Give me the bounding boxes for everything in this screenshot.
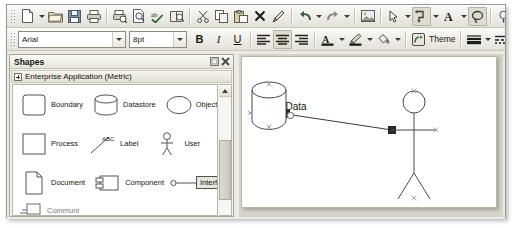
font-size-combo[interactable]: 8pt (129, 31, 187, 48)
separator (106, 8, 107, 24)
shape-item-communication[interactable]: Communi (19, 202, 79, 216)
shape-row-clipped: Communi (13, 202, 217, 216)
scrollbar-thumb[interactable] (219, 140, 231, 200)
restore-icon[interactable] (209, 56, 220, 67)
shape-item-process[interactable]: Process (19, 129, 78, 159)
connector-tool-dropdown[interactable] (431, 7, 440, 26)
line-weight-button[interactable] (464, 30, 483, 49)
font-size-value: 8pt (130, 35, 173, 44)
separator (405, 31, 406, 47)
svg-text:A: A (322, 33, 330, 44)
stencil-header-enterprise-application[interactable]: Enterprise Application (Metric) (11, 70, 232, 83)
shape-label: Communi (45, 206, 79, 215)
line-weight-dropdown[interactable] (483, 30, 492, 49)
research-button[interactable] (167, 7, 186, 26)
cut-button[interactable] (193, 7, 212, 26)
shape-item-label[interactable]: ABC Label (88, 129, 138, 159)
svg-text:ABC: ABC (102, 136, 115, 142)
theme-button[interactable] (409, 30, 428, 49)
rounded-rect-icon (19, 90, 49, 120)
pointer-tool-icon (388, 10, 400, 23)
freeform-tool-button[interactable] (468, 7, 487, 26)
line-color-pencil-icon (349, 33, 362, 46)
line-pattern-button[interactable] (492, 30, 505, 49)
align-right-button[interactable] (292, 30, 311, 49)
scroll-up-icon[interactable] (219, 85, 231, 97)
shape-item-boundary[interactable]: Boundary (19, 90, 83, 120)
lollipop-icon (170, 168, 196, 198)
align-left-button[interactable] (254, 30, 273, 49)
connector-tool-button[interactable] (412, 7, 431, 26)
line-color-button[interactable] (346, 30, 365, 49)
pointer-tool-dropdown[interactable] (403, 7, 412, 26)
formatting-toolbar: Arial 8pt B I U A (7, 28, 505, 51)
format-painter-button[interactable] (269, 7, 288, 26)
drawing-canvas-area[interactable]: Data (239, 54, 503, 217)
text-tool-button[interactable]: A (440, 7, 459, 26)
insert-picture-button[interactable] (358, 7, 377, 26)
undo-button[interactable] (295, 7, 314, 26)
redo-button[interactable] (323, 7, 342, 26)
shape-row: Document Component Interface (13, 163, 217, 202)
save-disk-icon (68, 10, 81, 23)
user-shape[interactable] (392, 89, 438, 201)
shape-item-interface[interactable]: Interface (170, 168, 218, 198)
new-dropdown[interactable] (37, 7, 46, 26)
paste-button[interactable] (231, 7, 250, 26)
open-button[interactable] (46, 7, 65, 26)
stick-figure-icon (152, 129, 182, 159)
shape-item-user[interactable]: User (152, 129, 200, 159)
new-document-icon (21, 9, 34, 23)
new-document-button[interactable] (18, 7, 37, 26)
line-color-dropdown[interactable] (365, 30, 374, 49)
font-name-combo[interactable]: Arial (18, 31, 126, 48)
separator (380, 8, 381, 24)
text-tool-dropdown[interactable] (459, 7, 468, 26)
font-color-button[interactable]: A (318, 30, 337, 49)
print-preview-button[interactable] (110, 7, 129, 26)
align-center-button[interactable] (273, 30, 292, 49)
shape-item-object[interactable]: Object (164, 90, 218, 120)
save-button[interactable] (65, 7, 84, 26)
shape-item-component[interactable]: Component (93, 168, 164, 198)
open-folder-icon (48, 10, 63, 23)
bold-button[interactable]: B (190, 30, 209, 49)
undo-dropdown[interactable] (314, 7, 323, 26)
research-book-icon (170, 10, 184, 23)
italic-button[interactable]: I (209, 30, 228, 49)
toolbar-grip[interactable] (10, 31, 16, 48)
standard-toolbar: ab (7, 5, 505, 28)
print-button[interactable] (84, 7, 103, 26)
shape-label: Document (49, 178, 85, 187)
pointer-tool-button[interactable] (384, 7, 403, 26)
toolbar-grip[interactable] (10, 8, 16, 25)
spelling-button[interactable]: ab (148, 7, 167, 26)
freeform-lasso-icon (471, 10, 484, 23)
application-window: ab (0, 0, 512, 228)
font-color-dropdown[interactable] (337, 30, 346, 49)
underline-button[interactable]: U (228, 30, 247, 49)
fill-color-button[interactable] (374, 30, 393, 49)
delete-button[interactable] (250, 7, 269, 26)
fill-color-dropdown[interactable] (393, 30, 402, 49)
expand-plus-icon[interactable] (14, 73, 22, 81)
copy-button[interactable] (212, 7, 231, 26)
redo-dropdown[interactable] (342, 7, 351, 26)
close-icon[interactable] (220, 56, 231, 67)
panel-title-label: Shapes (14, 57, 209, 67)
diagram-svg (242, 57, 497, 208)
chevron-down-icon[interactable] (173, 32, 186, 47)
chevron-down-icon[interactable] (112, 32, 125, 47)
shape-item-document[interactable]: Document (19, 168, 85, 198)
connector-line[interactable] (283, 111, 396, 134)
drawing-page[interactable]: Data (241, 56, 497, 208)
stencil-scrollbar[interactable] (219, 84, 232, 216)
page-magnifier-icon (132, 9, 145, 23)
zoom-page-button[interactable] (129, 7, 148, 26)
theme-label[interactable]: Theme (428, 34, 457, 44)
cylinder-icon (91, 90, 121, 120)
scrollbar-track[interactable] (219, 98, 231, 215)
shape-item-datastore[interactable]: Datastore (91, 90, 156, 120)
font-name-value: Arial (19, 35, 112, 44)
zoom-tool-button[interactable] (494, 7, 505, 26)
